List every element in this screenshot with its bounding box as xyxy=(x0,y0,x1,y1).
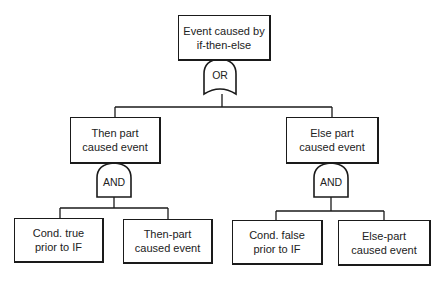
or-gate-label: OR xyxy=(204,69,236,81)
then-part-caused-line2: caused event xyxy=(135,241,200,255)
cond-true-line1: Cond. true xyxy=(33,226,84,240)
top-event-line2: if-then-else xyxy=(197,38,251,52)
then-part-event-line1: Then part xyxy=(91,126,138,140)
then-part-event-line2: caused event xyxy=(82,140,147,154)
else-part-caused-line2: caused event xyxy=(351,243,416,257)
cond-false-line2: prior to IF xyxy=(253,242,300,256)
right-and-gate-label: AND xyxy=(314,176,348,188)
top-event-box: Event caused by if-then-else xyxy=(178,15,271,61)
else-part-event-box: Else part caused event xyxy=(286,117,379,164)
left-and-gate-label: AND xyxy=(97,176,131,188)
top-event-line1: Event caused by xyxy=(183,24,264,38)
cond-true-event-box: Cond. true prior to IF xyxy=(14,218,104,263)
else-part-event-line1: Else part xyxy=(310,126,353,140)
cond-true-line2: prior to IF xyxy=(35,240,82,254)
else-part-caused-line1: Else-part xyxy=(362,229,406,243)
cond-false-line1: Cond. false xyxy=(249,228,305,242)
then-part-event-box: Then part caused event xyxy=(70,117,161,164)
then-part-caused-line1: Then-part xyxy=(144,227,192,241)
else-part-event-line2: caused event xyxy=(299,140,364,154)
cond-false-event-box: Cond. false prior to IF xyxy=(232,220,323,265)
then-part-caused-event-box: Then-part caused event xyxy=(123,219,213,264)
else-part-caused-event-box: Else-part caused event xyxy=(338,220,431,266)
